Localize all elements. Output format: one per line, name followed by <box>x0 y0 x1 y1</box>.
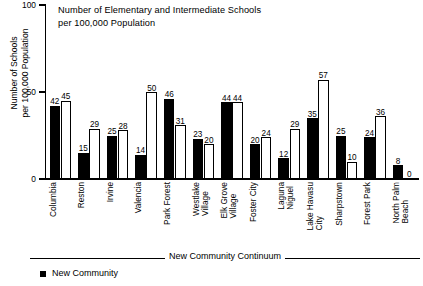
bar-group: 2320 <box>189 5 218 179</box>
bar-value-label: 8 <box>396 157 401 166</box>
y-tick-100 <box>39 4 46 5</box>
bar-group: 1529 <box>75 5 104 179</box>
bar: 8 <box>393 165 404 179</box>
bar-value-label: 15 <box>79 144 88 153</box>
x-axis-label: Columbia <box>49 182 58 217</box>
y-tick-label-100: 100 <box>10 0 36 10</box>
bar: 25 <box>336 136 347 180</box>
bar-value-label: 57 <box>319 71 328 80</box>
bar-group: 4245 <box>46 5 75 179</box>
continuum-caption: New Community Continuum <box>30 252 420 264</box>
x-axis-labels: ColumbiaRestonIrvineValenciaPark ForestW… <box>46 182 418 250</box>
bar: 36 <box>375 116 386 179</box>
x-axis-label: Irvine <box>106 182 115 202</box>
bar: 15 <box>78 153 89 179</box>
x-axis-title: New Community Continuum <box>165 251 285 261</box>
x-axis-label: Forest Park <box>363 182 372 225</box>
y-tick-label-0: 0 <box>10 174 36 184</box>
bar-group: 4444 <box>218 5 247 179</box>
bar: 29 <box>290 129 301 179</box>
bar-group: 2528 <box>103 5 132 179</box>
chart-legend: New Community <box>40 268 118 279</box>
bar: 20 <box>204 144 215 179</box>
x-axis-label: Lake Havasu City <box>306 182 325 230</box>
x-axis-label: Laguna Niguel <box>277 182 296 210</box>
bar-value-label: 28 <box>119 122 128 131</box>
bar: 44 <box>221 102 232 179</box>
bar-value-label: 14 <box>136 146 145 155</box>
bar: 14 <box>135 155 146 179</box>
bar: 50 <box>146 92 157 179</box>
x-axis-label: Westlake Village <box>192 182 211 216</box>
x-axis-label: Valencia <box>134 182 143 213</box>
bar: 29 <box>89 129 100 179</box>
x-axis-line <box>45 178 419 180</box>
x-axis-label: Foster City <box>249 182 258 222</box>
bar-group: 2436 <box>361 5 390 179</box>
bar-value-label: 42 <box>50 97 59 106</box>
bar-value-label: 36 <box>376 108 385 117</box>
bar: 24 <box>364 137 375 179</box>
bar-value-label: 44 <box>233 94 242 103</box>
bar-value-label: 45 <box>61 92 70 101</box>
bar-value-label: 25 <box>107 127 116 136</box>
bar-value-label: 29 <box>90 120 99 129</box>
bar: 44 <box>232 102 243 179</box>
bar: 31 <box>175 125 186 179</box>
bar-group: 1450 <box>132 5 161 179</box>
bar: 46 <box>164 99 175 179</box>
bar-value-label: 20 <box>204 136 213 145</box>
bar: 35 <box>307 118 318 179</box>
bar: 42 <box>50 106 61 179</box>
bar-value-label: 44 <box>222 94 231 103</box>
bar: 24 <box>261 137 272 179</box>
y-tick-50 <box>39 91 46 92</box>
bar-group: 2024 <box>246 5 275 179</box>
bar-value-label: 31 <box>176 117 185 126</box>
bar-value-label: 20 <box>250 136 259 145</box>
x-axis-label: North Palm Beach <box>392 182 411 224</box>
legend-label: New Community <box>52 268 118 279</box>
x-axis-label: Sharpstown <box>335 182 344 226</box>
bar: 28 <box>118 130 129 179</box>
bar-value-label: 12 <box>279 150 288 159</box>
bar-group: 4631 <box>160 5 189 179</box>
bar-group: 1229 <box>275 5 304 179</box>
bar: 23 <box>193 139 204 179</box>
bar: 57 <box>318 80 329 179</box>
x-axis-label: Elk Grove Village <box>220 182 239 218</box>
bar-value-label: 46 <box>165 90 174 99</box>
bar-group: 80 <box>389 5 418 179</box>
bar-value-label: 23 <box>193 130 202 139</box>
bar: 20 <box>250 144 261 179</box>
bar-group: 2510 <box>332 5 361 179</box>
bar-value-label: 29 <box>290 120 299 129</box>
legend-swatch-icon <box>40 271 46 277</box>
bar-value-label: 10 <box>347 153 356 162</box>
x-axis-label: Reston <box>77 182 86 208</box>
bar: 25 <box>107 136 118 180</box>
bar: 45 <box>61 101 72 179</box>
y-axis-title: Number of Schools per 100,000 Population <box>9 8 31 138</box>
bar-group: 3557 <box>304 5 333 179</box>
bar: 10 <box>347 162 358 179</box>
bar-value-label: 24 <box>262 129 271 138</box>
bar-value-label: 24 <box>365 129 374 138</box>
bar-chart: Number of Elementary and Intermediate Sc… <box>0 0 423 286</box>
bar-value-label: 35 <box>308 110 317 119</box>
x-axis-label: Park Forest <box>163 182 172 225</box>
bar-value-label: 50 <box>147 84 156 93</box>
bar-value-label: 25 <box>336 127 345 136</box>
bar: 12 <box>278 158 289 179</box>
plot-area: 4245152925281450463123204444202412293557… <box>46 5 418 179</box>
y-tick-label-50: 50 <box>10 87 36 97</box>
